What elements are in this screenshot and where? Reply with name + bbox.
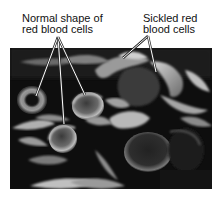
photo-content xyxy=(10,48,212,189)
label-normal-line2: red blood cells xyxy=(22,24,103,35)
label-normal-cells: Normal shape of red blood cells xyxy=(22,13,103,35)
label-sickled-cells: Sickled red blood cells xyxy=(143,13,197,35)
label-sickled-line2: blood cells xyxy=(143,24,197,35)
